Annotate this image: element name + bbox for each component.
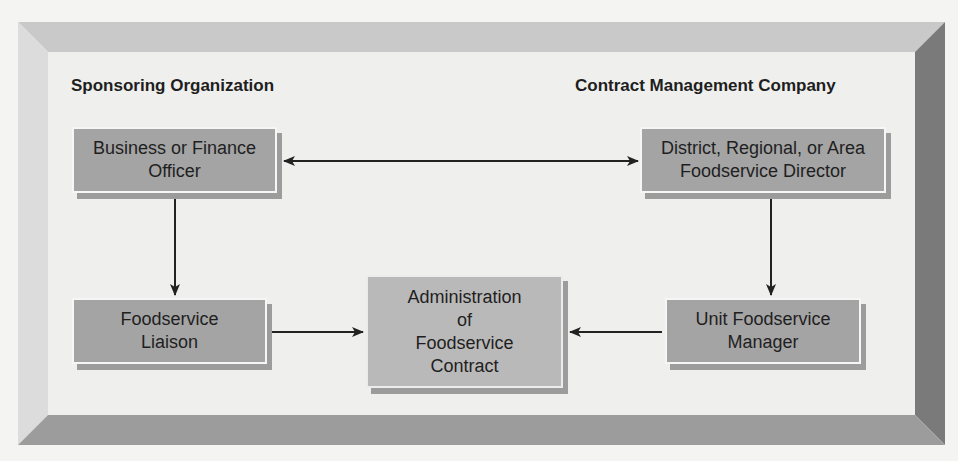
frame-left-bevel: [18, 22, 48, 445]
frame-top-bevel: [18, 22, 945, 52]
heading-contract-management-company: Contract Management Company: [575, 76, 836, 96]
diagram-canvas: Sponsoring Organization Contract Managem…: [0, 0, 958, 461]
beveled-frame: [0, 0, 958, 461]
frame-bottom-bevel: [18, 415, 945, 445]
heading-sponsoring-organization: Sponsoring Organization: [71, 76, 274, 96]
node-business-finance-officer: Business or Finance Officer: [72, 127, 277, 193]
frame-right-bevel: [915, 22, 945, 445]
node-unit-foodservice-manager: Unit Foodservice Manager: [665, 298, 861, 364]
node-administration-contract: Administration of Foodservice Contract: [366, 275, 563, 388]
node-district-director: District, Regional, or Area Foodservice …: [640, 127, 886, 193]
node-foodservice-liaison: Foodservice Liaison: [72, 298, 267, 364]
